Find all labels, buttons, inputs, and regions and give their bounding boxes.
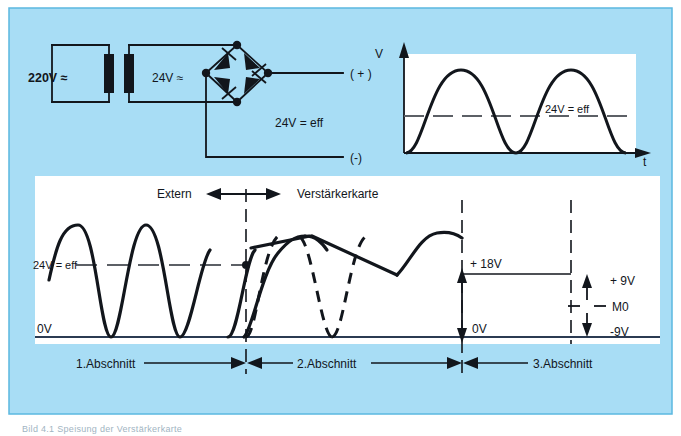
secondary-voltage-label: 24V ≈	[152, 71, 184, 85]
figure-caption: Bild 4.1 Speisung der Verstärkerkarte	[22, 424, 182, 434]
rectified-output-label: 24V = eff	[275, 116, 324, 130]
main-chart-eff-label: 24V = eff	[33, 259, 78, 271]
region-right-label: Verstärkerkarte	[297, 187, 379, 201]
main-chart-zero-label-right: 0V	[472, 322, 487, 336]
scale-minus9-label: -9V	[610, 325, 629, 339]
bridge-node-top	[233, 41, 241, 49]
diagram-canvas: 220V ≈ 24V ≈ 24V = eff ( + ) (-) V t 24V…	[0, 0, 681, 436]
span-18v-label: + 18V	[470, 257, 502, 271]
transformer-primary-winding	[104, 54, 114, 93]
section-label-3: 3.Abschnitt	[533, 357, 593, 371]
main-chart-zero-label-left: 0V	[37, 322, 52, 336]
terminal-plus-label: ( + )	[350, 67, 372, 81]
mains-voltage-label: 220V ≈	[28, 71, 68, 85]
terminal-minus-label: (-)	[350, 151, 362, 165]
top-chart-y-axis-label: V	[375, 47, 383, 61]
region-left-label: Extern	[157, 187, 192, 201]
section-label-1: 1.Abschnitt	[76, 357, 136, 371]
figure-root: 220V ≈ 24V ≈ 24V = eff ( + ) (-) V t 24V…	[0, 0, 681, 436]
section-label-2: 2.Abschnitt	[297, 357, 357, 371]
top-chart-eff-label: 24V = eff	[545, 103, 590, 115]
scale-plus9-label: + 9V	[610, 274, 635, 288]
transformer-secondary-winding	[124, 54, 134, 93]
bridge-node-bottom	[233, 98, 241, 106]
scale-m0-label: M0	[612, 300, 629, 314]
main-chart-plot-area	[35, 176, 660, 344]
